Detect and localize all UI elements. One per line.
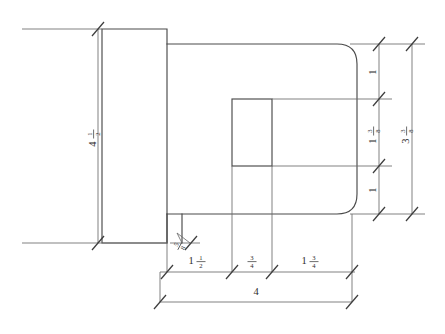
left-flange-outline	[102, 29, 167, 243]
notch-leader-line	[177, 233, 190, 243]
dimtext-right-overall-whole: 3	[400, 138, 411, 143]
part-drawing-svg: 4 1 2 1 1 3 8 1 3 3	[0, 0, 445, 334]
dimtext-right-lower-whole: 1	[367, 187, 378, 192]
dimtext-bottom-third-num: 3	[312, 254, 316, 261]
dimtext-bottom-third: 1 3 4	[301, 254, 318, 269]
dimtext-bottom-overall: 4	[253, 286, 259, 297]
dimension-text-group: 4 1 2 1 1 3 8 1 3 3	[86, 69, 414, 297]
dimtext-bottom-first-whole: 1	[188, 255, 193, 266]
dimtext-bottom-second-den: 4	[250, 262, 254, 269]
dimtext-right-overall-den: 8	[407, 129, 414, 133]
dimtext-bottom-third-den: 4	[312, 262, 316, 269]
dimtext-right-middle-num: 3	[366, 129, 373, 133]
inner-slot-outline	[232, 99, 272, 166]
dimtext-left-height: 4 1 2	[86, 130, 101, 147]
dimtext-left-height-num: 1	[86, 132, 93, 135]
dimtext-bottom-first-den: 2	[199, 262, 202, 269]
dimtext-bottom-second: 3 4	[248, 254, 257, 269]
dimtext-notch: 5 8	[171, 239, 188, 253]
dimtext-bottom-second-num: 3	[250, 254, 254, 261]
dimtext-left-height-den: 2	[94, 132, 101, 135]
dimtext-bottom-first: 1 1 2	[188, 254, 205, 269]
extension-lines-group	[22, 29, 425, 302]
technical-drawing-canvas: 4 1 2 1 1 3 8 1 3 3	[0, 0, 445, 334]
dimtext-bottom-third-whole: 1	[301, 255, 306, 266]
part-outline-group	[102, 29, 357, 243]
dimtext-left-height-whole: 4	[87, 141, 98, 147]
dimtext-right-overall-num: 3	[399, 129, 406, 133]
dimtext-right-upper: 1	[367, 69, 378, 74]
main-body-outline	[167, 44, 357, 214]
dimtext-right-middle-whole: 1	[367, 138, 378, 143]
dimtext-right-lower: 1	[367, 187, 378, 192]
dimtext-right-middle-den: 8	[374, 129, 381, 133]
dimtext-right-upper-whole: 1	[367, 69, 378, 74]
dimtext-bottom-first-num: 1	[199, 254, 202, 261]
